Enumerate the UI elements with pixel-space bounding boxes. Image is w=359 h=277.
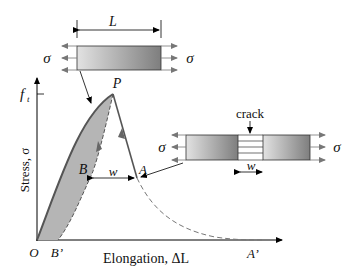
a-label: A — [138, 162, 147, 177]
a-prime-label: A’ — [246, 246, 259, 261]
length-label: L — [108, 14, 117, 29]
peak-label: P — [112, 76, 122, 91]
sigma-crack-left-label: σ — [158, 139, 166, 155]
energy-shaded-area — [37, 94, 113, 240]
left-block — [186, 135, 238, 160]
specimen-bar — [77, 46, 161, 70]
b-prime-label: B’ — [51, 245, 63, 260]
ft-subscript: t — [27, 94, 30, 104]
origin-label: O — [29, 245, 39, 260]
pointer-to-prepeak-arrow — [80, 71, 91, 103]
y-axis-label: Stress, σ — [17, 148, 32, 193]
b-label: B — [79, 162, 88, 177]
sigma-crack-right-label: σ — [333, 139, 341, 155]
crack-width-label-specimen: w — [247, 158, 256, 173]
sigma-right-label: σ — [186, 50, 194, 66]
pointer-to-a-arrow — [141, 163, 183, 177]
ft-label: f — [20, 86, 26, 102]
crack-label: crack — [236, 106, 265, 121]
softening-tail-dashed — [137, 178, 262, 240]
sigma-left-label: σ — [43, 50, 51, 66]
x-axis-label: Elongation, ΔL — [103, 251, 189, 266]
diagram-canvas: L σ σ crack w σ σ P f t Stres — [0, 0, 359, 277]
right-block — [263, 135, 310, 160]
crack-width-label-curve: w — [109, 164, 118, 179]
